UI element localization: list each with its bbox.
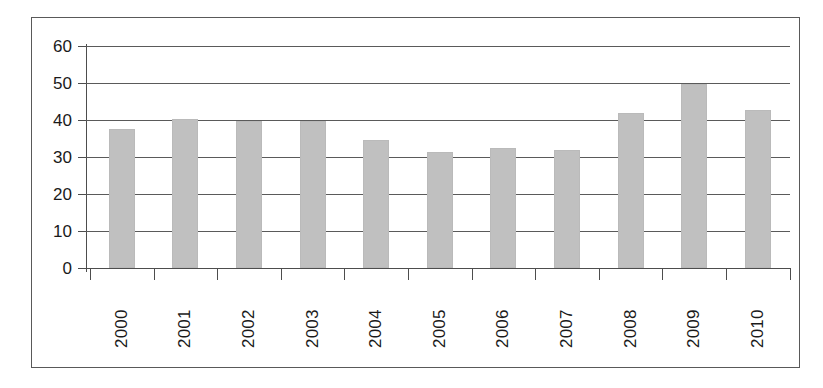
x-tick-label-2001: 2001 <box>176 284 194 348</box>
y-axis-tick-labels: 60 50 40 30 20 10 0 <box>28 0 72 388</box>
bar-2009 <box>681 84 707 268</box>
x-tick-label-2008: 2008 <box>622 284 640 348</box>
x-tick-label-2006: 2006 <box>494 284 512 348</box>
x-tick-mark-2008 <box>662 268 663 280</box>
y-tick-label-30: 30 <box>32 149 72 166</box>
x-tick-mark-2010 <box>790 268 791 280</box>
bar-2001 <box>172 119 198 268</box>
x-tick-label-2003: 2003 <box>304 284 322 348</box>
y-tick-label-20: 20 <box>32 186 72 203</box>
x-tick-label-2004: 2004 <box>367 284 385 348</box>
x-tick-mark-2001 <box>217 268 218 280</box>
x-tick-mark-2003 <box>344 268 345 280</box>
y-tick-label-10: 10 <box>32 223 72 240</box>
bar-2002 <box>236 121 262 268</box>
bar-2008 <box>618 113 644 268</box>
bar-2003 <box>300 121 326 268</box>
bar-2005 <box>427 152 453 268</box>
x-tick-label-2007: 2007 <box>558 284 576 348</box>
x-tick-label-2002: 2002 <box>240 284 258 348</box>
bar-2006 <box>490 148 516 268</box>
y-tick-label-40: 40 <box>32 112 72 129</box>
bar-2010 <box>745 110 771 268</box>
x-tick-mark-2004 <box>408 268 409 280</box>
x-axis-line <box>86 268 791 269</box>
bar-chart-figure: 60 50 40 30 20 10 0 20002001200220032004… <box>0 0 823 388</box>
x-tick-label-2009: 2009 <box>685 284 703 348</box>
x-tick-mark-2002 <box>281 268 282 280</box>
gridline-60 <box>86 46 790 47</box>
x-tick-label-2010: 2010 <box>749 284 767 348</box>
plot-area <box>86 46 790 268</box>
bar-2004 <box>363 140 389 268</box>
x-tick-mark-2000 <box>154 268 155 280</box>
bar-2000 <box>109 129 135 268</box>
x-tick-mark-2009 <box>726 268 727 280</box>
x-tick-mark-2007 <box>599 268 600 280</box>
x-tick-mark-2005 <box>472 268 473 280</box>
x-tick-label-2000: 2000 <box>113 284 131 348</box>
x-tick-mark-start <box>90 268 91 280</box>
y-tick-label-60: 60 <box>32 38 72 55</box>
x-tick-label-2005: 2005 <box>431 284 449 348</box>
y-tick-label-50: 50 <box>32 75 72 92</box>
bar-2007 <box>554 150 580 268</box>
x-tick-mark-2006 <box>535 268 536 280</box>
y-tick-label-0: 0 <box>32 260 72 277</box>
